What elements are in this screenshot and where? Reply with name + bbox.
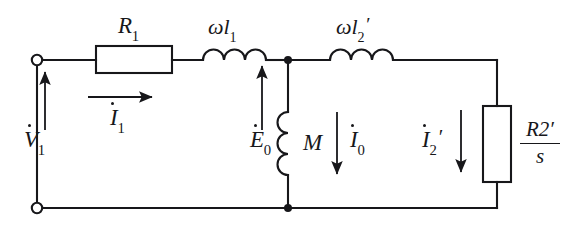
label-omega-l1-omega: ω [208,14,224,39]
node-top-mid [284,56,292,64]
label-r2p-denominator: s [520,145,560,169]
node-bottom-mid [284,204,292,212]
label-r2p-numerator-prime: ′ [549,117,554,141]
label-omega-l2p-sub: 2 [357,29,364,45]
label-r2p-over-s: R2′ s [520,118,560,168]
label-r2p-numerator-base: R [526,117,539,141]
label-r1: R1 [118,14,139,41]
inductor-m-coil [278,112,289,175]
label-e0-sub: 0 [264,142,271,158]
label-v1-base: V [24,128,38,151]
label-i2p: I2′ [422,128,442,155]
label-v1-sub: 1 [38,142,45,158]
label-i2p-sub: 2 [429,142,436,158]
inductor-omega-l1-coil [203,50,266,61]
label-r2p-numerator: R2′ [520,118,560,142]
label-i1-sub: 1 [117,120,124,136]
label-r2p-numerator-sub: 2 [539,117,550,141]
label-omega-l1-sub: 1 [229,29,236,45]
label-i1: I1 [110,106,125,133]
terminal-top-left[interactable] [32,55,42,65]
resistor-r1-body [96,46,172,73]
inductor-omega-l2p-coil [330,50,393,61]
label-m-base: M [303,130,322,155]
label-i2p-prime: ′ [437,126,442,148]
label-r1-base: R [118,13,132,38]
label-omega-l2p-prime: ′ [365,13,369,35]
label-v1: V1 [24,128,45,155]
label-e0: E0 [250,128,271,155]
label-omega-l2p-omega: ω [336,14,352,39]
label-i0-sub: 0 [357,142,364,158]
label-omega-l1: ωl1 [208,16,237,41]
label-e0-base: E [250,128,264,151]
label-r1-sub: 1 [132,28,139,44]
label-omega-l2p: ωl2′ [336,16,369,41]
label-i0: I0 [350,128,365,155]
label-m: M [303,131,322,154]
resistor-r2p-body [483,106,511,182]
circuit-schematic-svg [0,0,568,240]
terminal-bottom-left[interactable] [32,203,42,213]
circuit-diagram-canvas: R1 ωl1 ωl2′ V1 I1 E0 M I0 I2′ R2′ s [0,0,568,240]
